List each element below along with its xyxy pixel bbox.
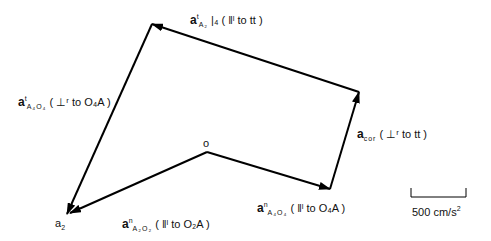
symbol: a: [122, 217, 129, 231]
sup: n: [129, 217, 133, 224]
desc: ( ⊥ʳ to O₄A ): [50, 96, 111, 108]
symbol: a: [357, 127, 364, 141]
end-label-sub: 2: [61, 224, 66, 231]
extra: |₄: [211, 14, 218, 26]
origin-label: o: [203, 138, 209, 149]
sup: t: [197, 13, 199, 20]
label-a-t-a4o4: atA₄O₄ ( ⊥ʳ to O₄A ): [18, 95, 111, 110]
vector-a-n-a4o4: [207, 152, 330, 189]
symbol: a: [18, 95, 25, 109]
vector-a-cor: [330, 92, 359, 189]
symbol: a: [257, 201, 264, 215]
label-a-n-a2o2: anA₂O₂ ( ‖ˡ to O₂A ): [122, 217, 210, 232]
scale-text: 500 cm/s: [412, 206, 457, 218]
desc: ( ‖ˡ to tt ): [222, 14, 263, 26]
symbol: a: [190, 13, 197, 27]
sub: A₄O₄: [27, 103, 47, 110]
scale-bar: [411, 188, 466, 197]
desc: ( ⊥ʳ to tt ): [379, 128, 426, 140]
desc: ( ‖ˡ to O₄A ): [291, 202, 346, 214]
desc: ( ‖ˡ to O₂A ): [155, 218, 210, 230]
sub: A₂: [199, 21, 208, 28]
sup: t: [25, 95, 27, 102]
scale-exp: 2: [457, 205, 461, 212]
sub: A₂O₂: [133, 225, 153, 232]
end-label: a2: [55, 218, 66, 231]
label-a-n-a4o4: anA₄O₄ ( ‖ˡ to O₄A ): [257, 201, 345, 216]
vector-a-t-a2: [152, 24, 359, 92]
label-a-t-a2: atA₂ |₄ ( ‖ˡ to tt ): [190, 13, 263, 28]
vector-a-t-a4o4: [67, 24, 152, 214]
sup: n: [264, 201, 268, 208]
sub: cor: [364, 135, 377, 142]
label-a-cor: acor ( ⊥ʳ to tt ): [357, 128, 427, 142]
sub: A₄O₄: [268, 209, 288, 216]
scale-label: 500 cm/s2: [412, 205, 461, 218]
